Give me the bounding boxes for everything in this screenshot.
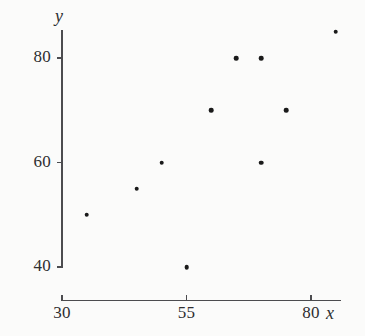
plot-area: y x 406080 305580 xyxy=(0,0,365,336)
y-tick-mark xyxy=(57,57,62,58)
data-point xyxy=(259,160,264,165)
y-tick-label: 80 xyxy=(11,47,51,67)
y-axis-label: y xyxy=(55,6,63,27)
scatter-plot-figure: y x 406080 305580 xyxy=(0,0,365,336)
data-point xyxy=(85,212,90,217)
x-tick-mark xyxy=(186,295,187,300)
data-point xyxy=(134,186,139,191)
x-tick-mark xyxy=(61,295,62,300)
x-tick-label: 30 xyxy=(42,303,82,323)
data-point xyxy=(334,30,339,35)
y-tick-mark xyxy=(57,266,62,267)
data-point xyxy=(159,160,164,165)
y-tick-label: 40 xyxy=(11,256,51,276)
y-tick-mark xyxy=(57,162,62,163)
data-point xyxy=(209,108,214,113)
x-tick-mark xyxy=(310,295,311,300)
data-point xyxy=(234,56,239,61)
x-axis-line xyxy=(61,300,341,302)
x-tick-label: 80 xyxy=(291,303,331,323)
data-point xyxy=(184,265,189,270)
x-tick-label: 55 xyxy=(167,303,207,323)
y-tick-label: 60 xyxy=(11,152,51,172)
data-point xyxy=(259,56,264,61)
data-point xyxy=(284,108,289,113)
y-axis-line xyxy=(61,30,63,268)
